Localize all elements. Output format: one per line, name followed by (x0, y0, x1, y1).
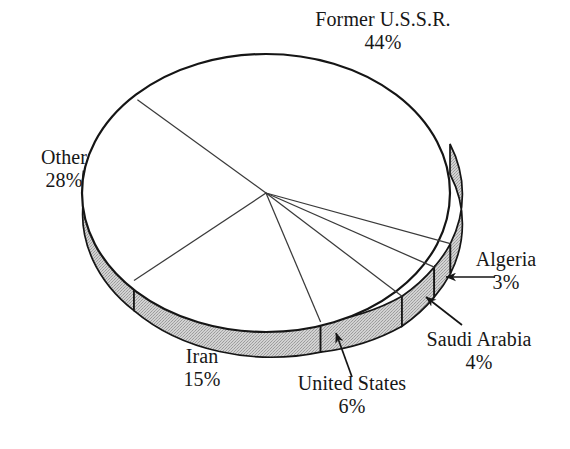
slice-label-saudi-arabia: Saudi Arabia 4% (396, 328, 562, 374)
slice-label-united-states-name: United States (272, 372, 432, 395)
slice-label-united-states-value: 6% (272, 395, 432, 418)
slice-label-iran-value: 15% (150, 368, 254, 391)
leader-line-saudi-arabia (426, 297, 462, 325)
slice-label-former-ussr: Former U.S.S.R. 44% (283, 8, 483, 54)
slice-label-algeria: Algeria 3% (450, 248, 562, 294)
slice-label-algeria-name: Algeria (450, 248, 562, 271)
slice-label-other: Other 28% (12, 146, 116, 192)
pie-side-algeria (434, 244, 450, 298)
pie-chart: Former U.S.S.R. 44% Other 28% Iran 15% U… (0, 0, 570, 449)
slice-label-saudi-arabia-name: Saudi Arabia (396, 328, 562, 351)
slice-label-united-states: United States 6% (272, 372, 432, 418)
slice-label-other-value: 28% (12, 169, 116, 192)
slice-label-iran-name: Iran (150, 345, 254, 368)
slice-label-former-ussr-name: Former U.S.S.R. (283, 8, 483, 31)
slice-label-saudi-arabia-value: 4% (396, 351, 562, 374)
pie-top-face-group (82, 54, 450, 332)
slice-label-other-name: Other (12, 146, 116, 169)
slice-label-former-ussr-value: 44% (283, 31, 483, 54)
slice-label-iran: Iran 15% (150, 345, 254, 391)
slice-label-algeria-value: 3% (450, 271, 562, 294)
